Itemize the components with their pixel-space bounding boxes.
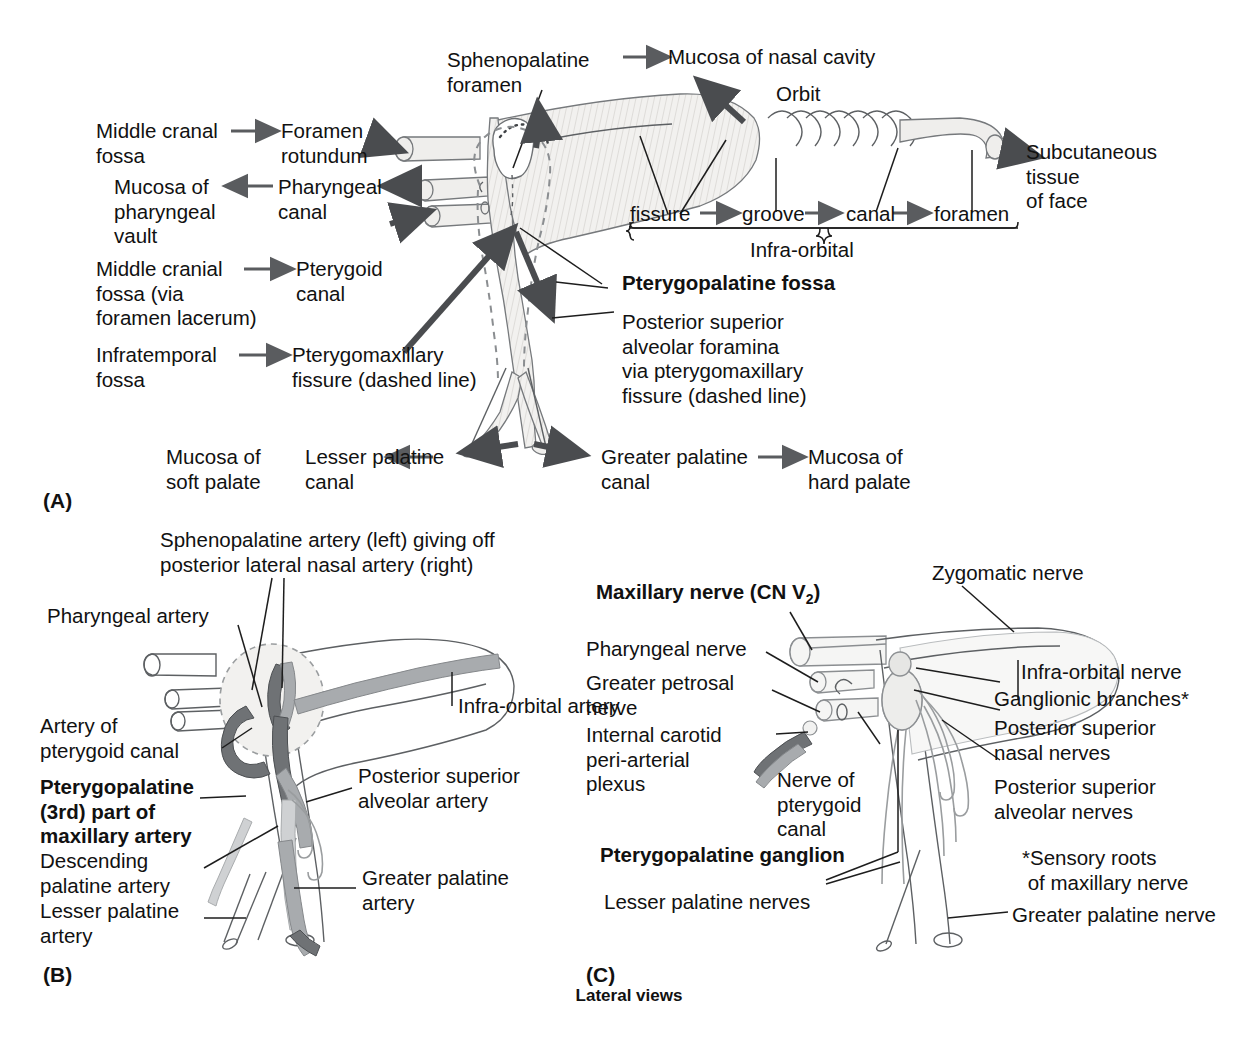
label-pterygopalatine-maxillary-artery: Pterygopalatine (3rd) part of maxillary …	[40, 775, 194, 849]
label-sphenopalatine-artery: Sphenopalatine artery (left) giving off …	[160, 528, 495, 577]
figure-footer-caption: Lateral views	[0, 986, 1258, 1006]
label-zygomatic-nerve: Zygomatic nerve	[932, 561, 1084, 586]
label-subcutaneous-tissue-face: Subcutaneous tissue of face	[1026, 140, 1157, 214]
label-greater-palatine-nerve: Greater palatine nerve	[1012, 903, 1216, 928]
label-posterior-superior-alveolar-artery: Posterior superior alveolar artery	[358, 764, 520, 813]
infraorbital-canal-tube	[900, 118, 1005, 159]
label-artery-of-pterygoid-canal: Artery of pterygoid canal	[40, 714, 179, 763]
foramen-rotundum-tube	[395, 137, 480, 161]
label-lesser-palatine-canal: Lesser palatine canal	[305, 445, 444, 494]
label-pterygoid-canal: Pterygoid canal	[296, 257, 383, 306]
panel-label-c: (C)	[586, 963, 615, 987]
label-greater-petrosal-nerve: Greater petrosal nerve	[586, 671, 734, 720]
maxillary-nerve-paren: )	[813, 580, 820, 603]
infraorbital-groove-coils	[768, 111, 916, 146]
label-pharyngeal-canal: Pharyngeal canal	[278, 175, 382, 224]
label-posterior-superior-alveolar-nerves: Posterior superior alveolar nerves	[994, 775, 1156, 824]
panel-label-b: (B)	[43, 963, 72, 987]
label-mucosa-hard-palate: Mucosa of hard palate	[808, 445, 911, 494]
label-infraorbital-nerve: Infra-orbital nerve	[1021, 660, 1182, 685]
label-maxillary-nerve: Maxillary nerve (CN V2)	[596, 580, 820, 612]
label-greater-palatine-artery: Greater palatine artery	[362, 866, 509, 915]
label-orbit: Orbit	[776, 82, 820, 107]
label-mucosa-nasal-cavity: Mucosa of nasal cavity	[668, 45, 875, 70]
label-pharyngeal-artery: Pharyngeal artery	[47, 604, 209, 629]
anatomy-figure: Sphenopalatine foramen Mucosa of nasal c…	[0, 0, 1258, 1038]
label-lesser-palatine-artery: Lesser palatine artery	[40, 899, 179, 948]
label-middle-cranial-fossa-lacerum: Middle cranial fossa (via foramen laceru…	[96, 257, 257, 331]
label-sensory-roots-note: *Sensory roots of maxillary nerve	[1022, 846, 1188, 895]
label-sphenopalatine-foramen: Sphenopalatine foramen	[447, 48, 590, 97]
maxillary-nerve-text: Maxillary nerve (CN V	[596, 580, 806, 603]
label-pterygopalatine-ganglion: Pterygopalatine ganglion	[600, 843, 845, 868]
label-pterygopalatine-fossa: Pterygopalatine fossa	[622, 271, 835, 296]
chain-item-groove: groove	[742, 202, 805, 227]
pterygoid-canal-tube	[424, 204, 492, 227]
label-internal-carotid-plexus: Internal carotid peri-arterial plexus	[586, 723, 722, 797]
label-foramen-rotundum: Foramen rotundum	[281, 119, 368, 168]
label-posterior-superior-nasal-nerves: Posterior superior nasal nerves	[994, 716, 1156, 765]
label-ganglionic-branches: Ganglionic branches*	[994, 687, 1189, 712]
label-mucosa-pharyngeal-vault: Mucosa of pharyngeal vault	[114, 175, 215, 249]
label-nerve-of-pterygoid-canal: Nerve of pterygoid canal	[777, 768, 861, 842]
label-lesser-palatine-nerves: Lesser palatine nerves	[604, 890, 810, 915]
label-middle-cranal-fossa: Middle cranal fossa	[96, 119, 218, 168]
label-mucosa-soft-palate: Mucosa of soft palate	[166, 445, 261, 494]
label-posterior-superior-alveolar-foramina: Posterior superior alveolar foramina via…	[622, 310, 807, 408]
chain-item-canal: canal	[846, 202, 895, 227]
label-infraorbital-brace: Infra-orbital	[750, 238, 854, 263]
panel-label-a: (A)	[43, 489, 72, 513]
label-descending-palatine-artery: Descending palatine artery	[40, 849, 170, 898]
label-infratemporal-fossa: Infratemporal fossa	[96, 343, 217, 392]
label-pterygomaxillary-fissure: Pterygomaxillary fissure (dashed line)	[292, 343, 477, 392]
chain-item-fissure: fissure	[630, 202, 690, 227]
chain-item-foramen: foramen	[934, 202, 1009, 227]
label-pharyngeal-nerve: Pharyngeal nerve	[586, 637, 747, 662]
label-greater-palatine-canal: Greater palatine canal	[601, 445, 748, 494]
